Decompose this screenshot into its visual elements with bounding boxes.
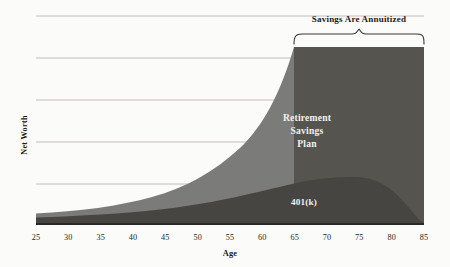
plan-label-line-1: Retirement (283, 112, 332, 123)
x-tick-25: 25 (32, 233, 41, 242)
x-tick-85: 85 (420, 233, 429, 242)
y-axis-title: Net Worth (20, 115, 29, 155)
x-tick-55: 55 (226, 233, 235, 242)
x-tick-45: 45 (161, 233, 170, 242)
x-axis-tick-labels: 25 30 35 40 45 50 55 60 65 70 75 80 85 (32, 233, 429, 242)
plan-label-line-2: Savings (291, 125, 324, 136)
net-worth-area-chart: Savings Are Annuitized Retirement Saving… (0, 0, 450, 267)
annuitized-brace-icon (294, 29, 424, 44)
annuitized-annotation-label: Savings Are Annuitized (312, 14, 406, 24)
x-tick-75: 75 (355, 233, 364, 242)
x-tick-40: 40 (129, 233, 138, 242)
k401-label: 401(k) (291, 197, 317, 207)
x-tick-60: 60 (258, 233, 267, 242)
x-axis-title: Age (223, 249, 238, 258)
x-tick-30: 30 (64, 233, 73, 242)
x-tick-35: 35 (96, 233, 105, 242)
x-tick-70: 70 (323, 233, 332, 242)
chart-page: Savings Are Annuitized Retirement Saving… (0, 0, 450, 267)
x-tick-80: 80 (387, 233, 396, 242)
x-tick-50: 50 (193, 233, 202, 242)
x-tick-65: 65 (290, 233, 299, 242)
plan-label-line-3: Plan (297, 138, 317, 149)
